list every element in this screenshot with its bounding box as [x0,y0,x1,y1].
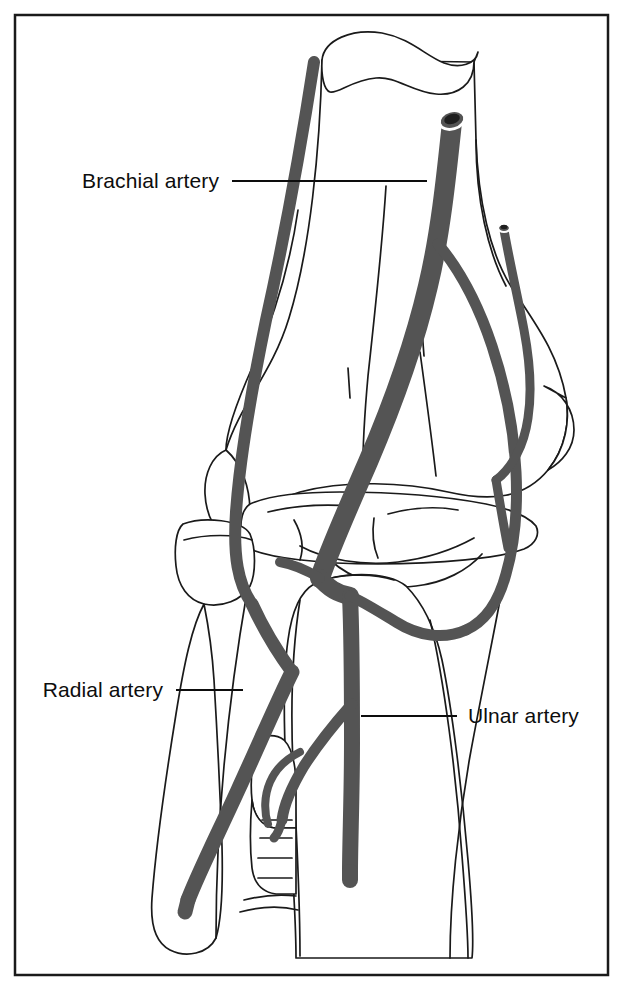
brachial-artery-label: Brachial artery [82,169,219,192]
ulnar-artery-label: Ulnar artery [468,704,579,727]
radial-artery-label: Radial artery [43,678,164,701]
ulnar-artery-trunk [350,596,352,872]
radial-artery-cut-end [185,900,188,912]
anatomy-figure-root: Brachial artery Radial artery Ulnar arte… [0,0,625,1005]
recurrent-branch-lumen [501,225,508,229]
anatomy-diagram-svg: Brachial artery Radial artery Ulnar arte… [0,0,625,1005]
